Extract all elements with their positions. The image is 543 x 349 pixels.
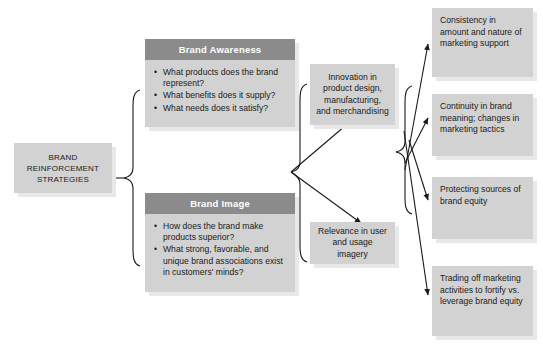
box-protecting-sources-label: Protecting sources of brand equity: [432, 177, 533, 207]
box-trading-off: Trading off marketing activities to fort…: [432, 266, 533, 336]
panel-brand-awareness-body: What products does the brand represent? …: [145, 60, 295, 123]
panel-brand-image: Brand Image How does the brand make prod…: [145, 193, 295, 292]
panel-brand-image-body: How does the brand make products superio…: [145, 214, 295, 287]
box-innovation: Innovation in product design, manufactur…: [310, 64, 395, 125]
left-brace: [114, 90, 140, 266]
right-brace: [396, 86, 412, 214]
box-relevance: Relevance in user and usage imagery: [310, 222, 395, 264]
root-box-label: BRAND REINFORCEMENT STRATEGIES: [27, 152, 99, 185]
root-line-3: STRATEGIES: [27, 174, 99, 185]
box-consistency: Consistency in amount and nature of mark…: [432, 8, 533, 77]
panel-brand-awareness-header: Brand Awareness: [145, 39, 295, 60]
box-protecting-sources: Protecting sources of brand equity: [432, 177, 533, 239]
box-consistency-label: Consistency in amount and nature of mark…: [432, 8, 533, 50]
outcome-arrows: [404, 44, 428, 295]
list-item: What strong, favorable, and unique brand…: [154, 244, 286, 278]
panel-brand-image-header: Brand Image: [145, 193, 295, 214]
list-item: What benefits does it supply?: [154, 90, 286, 101]
list-item: What products does the brand represent?: [154, 67, 286, 89]
box-continuity-label: Continuity in brand meaning; changes in …: [432, 94, 533, 136]
panel-brand-awareness: Brand Awareness What products does the b…: [145, 39, 295, 127]
root-line-2: REINFORCEMENT: [27, 163, 99, 174]
root-line-1: BRAND: [27, 152, 99, 163]
diagram-canvas: BRAND REINFORCEMENT STRATEGIES Brand Awa…: [0, 0, 543, 349]
box-innovation-label: Innovation in product design, manufactur…: [310, 72, 395, 118]
panel-brand-awareness-list: What products does the brand represent? …: [154, 67, 286, 114]
box-continuity: Continuity in brand meaning; changes in …: [432, 94, 533, 156]
list-item: How does the brand make products superio…: [154, 221, 286, 243]
panel-brand-image-list: How does the brand make products superio…: [154, 221, 286, 278]
box-trading-off-label: Trading off marketing activities to fort…: [432, 266, 533, 308]
root-box-brand-reinforcement-strategies: BRAND REINFORCEMENT STRATEGIES: [14, 143, 112, 193]
list-item: What needs does it satisfy?: [154, 103, 286, 114]
box-relevance-label: Relevance in user and usage imagery: [310, 226, 395, 260]
